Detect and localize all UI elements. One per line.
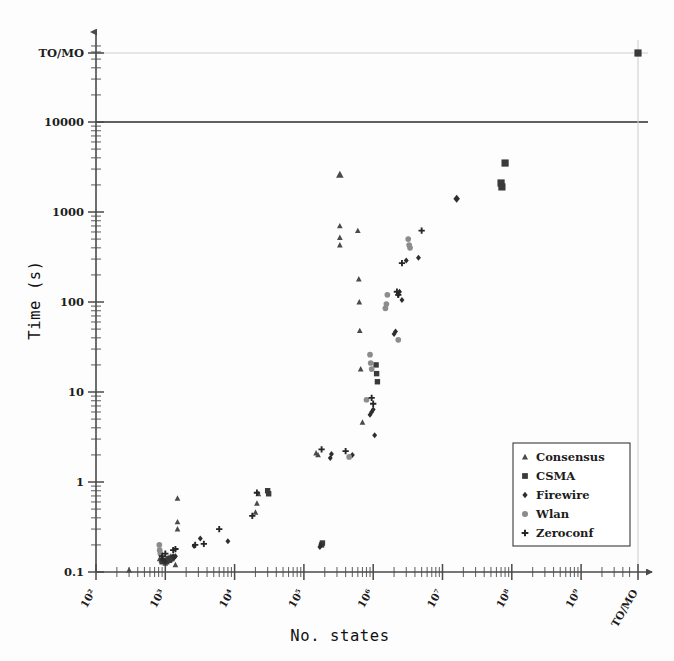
x-axis-tick-labels: 10²10³10⁴10⁵10⁶10⁷10⁸10⁹TO/MO [78,587,640,629]
data-point-firewire [453,195,460,203]
data-point-csma [375,379,380,384]
data-point-wlan [384,292,390,298]
data-point-consensus [358,366,364,371]
legend-marker-csma [522,473,528,479]
x-axis-title: No. states [290,627,389,645]
data-point-zeroconf [369,395,375,401]
data-point-zeroconf [418,228,424,234]
data-point-zeroconf [399,260,405,266]
data-point-consensus [175,495,181,500]
data-point-csma [634,49,641,56]
data-point-wlan [405,236,411,242]
data-point-wlan [364,397,370,403]
x-tick-label: 10⁵ [286,587,306,610]
data-point-zeroconf [216,526,222,532]
data-point-csma [266,491,271,496]
data-point-firewire [225,538,230,544]
data-point-consensus [336,171,344,178]
data-point-zeroconf [342,448,348,454]
data-point-csma [374,371,379,376]
legend-label-firewire[interactable]: Firewire [536,488,590,502]
y-tick-label: 1 [76,475,84,489]
legend-label-zeroconf[interactable]: Zeroconf [536,526,594,540]
data-point-firewire [372,432,377,438]
data-point-consensus [337,235,343,240]
y-tick-label: 1000 [52,205,84,219]
data-point-consensus [254,500,260,505]
x-tick-label: 10² [78,587,98,610]
data-point-zeroconf [370,401,376,407]
scatter-plot-canvas: 0.1110100100010000TO/MO 10²10³10⁴10⁵10⁶1… [0,0,674,661]
data-point-wlan [395,337,401,343]
legend-marker-wlan [522,511,528,517]
chart-legend[interactable]: ConsensusCSMAFirewireWlanZeroconf [513,443,630,546]
series-wlan [156,236,412,556]
data-point-consensus [337,223,343,228]
data-point-zeroconf [201,541,207,547]
data-point-consensus [337,242,343,247]
data-point-consensus [355,228,361,233]
x-tick-label: 10³ [147,587,167,610]
data-point-consensus [175,519,181,524]
y-axis-title: Time (s) [26,260,44,339]
legend-label-consensus[interactable]: Consensus [536,450,605,464]
data-point-consensus [357,328,363,333]
data-point-wlan [156,542,162,548]
y-tick-label: 10 [68,385,84,399]
data-point-wlan [368,360,374,366]
series-consensus [126,171,365,573]
x-tick-label: 10⁸ [494,587,514,610]
x-tick-label: 10⁶ [355,587,375,610]
data-point-wlan [369,366,375,372]
legend-label-wlan[interactable]: Wlan [535,507,570,521]
chart-figure: 0.1110100100010000TO/MO 10²10³10⁴10⁵10⁶1… [0,0,674,661]
series-firewire [160,195,460,565]
data-point-wlan [407,245,413,251]
y-tick-label: 0.1 [64,565,84,579]
legend-label-csma[interactable]: CSMA [536,469,576,483]
series-zeroconf [159,228,425,560]
data-point-csma [501,159,508,166]
data-point-wlan [384,301,390,307]
data-point-consensus [253,509,259,514]
data-point-consensus [173,562,179,567]
x-tick-label-to-mo: TO/MO [609,587,640,629]
data-point-consensus [356,299,362,304]
data-point-zeroconf [318,446,324,452]
y-axis-tick-labels: 0.1110100100010000TO/MO [38,46,84,579]
y-tick-label: 10000 [44,115,84,129]
data-point-consensus [175,526,181,531]
data-point-csma [373,362,378,367]
x-tick-label: 10⁷ [424,587,444,610]
data-point-wlan [346,454,352,460]
data-point-csma [498,183,505,190]
data-point-firewire [399,297,404,303]
data-point-consensus [360,419,366,424]
data-point-consensus [356,276,362,281]
data-point-firewire [416,255,421,261]
data-point-wlan [367,352,373,358]
x-tick-label: 10⁴ [216,587,236,610]
x-tick-label: 10⁹ [563,587,583,610]
y-tick-label: 100 [60,295,84,309]
data-point-firewire [198,536,203,542]
y-tick-label: TO/MO [38,46,84,60]
data-point-consensus [126,567,132,572]
